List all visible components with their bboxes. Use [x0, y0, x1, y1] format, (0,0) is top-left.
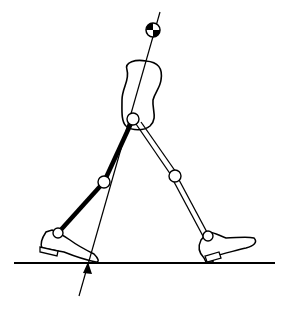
stance-knee-joint [98, 176, 110, 188]
swing-knee-joint [169, 170, 181, 182]
ground-reaction-force-line [79, 12, 160, 296]
stance-leg [58, 119, 133, 233]
hip-joint [127, 113, 139, 125]
stance-ankle-joint [53, 228, 63, 238]
gait-diagram [0, 0, 284, 310]
center-of-mass-icon [146, 23, 160, 37]
swing-ankle-joint [203, 231, 213, 241]
